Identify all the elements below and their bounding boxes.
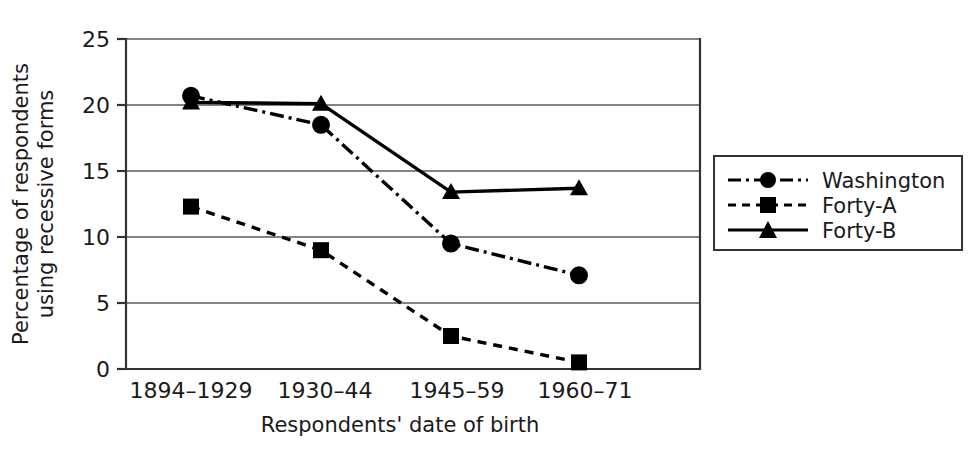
y-tick-label-10: 10 (82, 225, 110, 250)
y-tick-label-15: 15 (82, 159, 110, 184)
circle-marker-icon (760, 172, 776, 188)
plot-area-background (126, 39, 700, 369)
legend-label-forty-a: Forty-A (822, 194, 897, 218)
series-forty-a-point-2 (313, 242, 329, 258)
series-forty-a-point-1 (183, 199, 199, 215)
x-category-label-3: 1945–59 (410, 378, 505, 403)
x-category-label-4: 1960–71 (538, 378, 633, 403)
y-axis-title-line2: using recessive forms (34, 90, 58, 319)
series-washington-point-1 (182, 87, 200, 105)
y-axis-title-line1: Percentage of respondents (9, 63, 33, 345)
x-axis-title: Respondents' date of birth (261, 413, 539, 437)
chart-legend: Washington Forty-A Forty-B (714, 156, 962, 250)
series-forty-a-point-4 (571, 354, 587, 370)
series-washington-point-3 (442, 235, 460, 253)
series-washington-point-4 (570, 266, 588, 284)
legend-label-washington: Washington (822, 169, 945, 193)
series-washington-point-2 (312, 116, 330, 134)
y-tick-label-0: 0 (96, 357, 110, 382)
square-marker-icon (760, 197, 776, 213)
line-chart: 25 20 15 10 5 0 1894–1929 1930–44 1945–5… (0, 0, 969, 457)
y-tick-label-25: 25 (82, 27, 110, 52)
legend-label-forty-b: Forty-B (822, 219, 896, 243)
chart-figure: 25 20 15 10 5 0 1894–1929 1930–44 1945–5… (0, 0, 969, 457)
series-forty-a-point-3 (443, 328, 459, 344)
x-category-label-2: 1930–44 (278, 378, 373, 403)
x-category-label-1: 1894–1929 (130, 378, 253, 403)
y-tick-label-20: 20 (82, 93, 110, 118)
y-tick-label-5: 5 (96, 291, 110, 316)
y-axis-ticks (117, 39, 126, 369)
